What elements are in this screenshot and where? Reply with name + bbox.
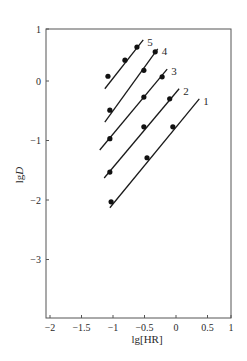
data-point <box>170 124 175 129</box>
data-point <box>107 108 112 113</box>
y-tick-label: 1 <box>36 24 41 35</box>
y-tick-label: 0 <box>36 76 41 87</box>
series-label: 3 <box>171 65 177 77</box>
series-label: 4 <box>162 45 168 57</box>
x-tick-label: 0.5 <box>201 322 214 333</box>
x-tick-label: 1 <box>229 322 234 333</box>
x-tick-label: −1 <box>108 322 119 333</box>
y-tick-label: −1 <box>30 135 41 146</box>
chart-container: −2−1.5−1−0.500.51 10−1−2−3 12345 lg[HR] … <box>0 0 247 361</box>
series-1: 1 <box>109 95 209 208</box>
y-axis-label: lgD <box>13 167 25 184</box>
data-point <box>107 169 112 174</box>
x-tick-label: −0.5 <box>135 322 153 333</box>
data-point <box>107 136 112 141</box>
y-tick-label: −3 <box>30 254 41 265</box>
y-axis-label-variable: D <box>13 167 25 176</box>
data-point <box>141 94 146 99</box>
series-label: 5 <box>147 36 153 48</box>
data-series: 12345 <box>100 36 209 208</box>
fit-line <box>104 89 179 178</box>
data-point <box>122 58 127 63</box>
x-tick-label: −1.5 <box>72 322 90 333</box>
series-label: 2 <box>183 85 189 97</box>
data-point <box>141 124 146 129</box>
fit-line <box>110 99 199 208</box>
y-tick-label: −2 <box>30 195 41 206</box>
data-point <box>105 74 110 79</box>
data-point <box>153 49 158 54</box>
data-point <box>109 199 114 204</box>
data-point <box>144 155 149 160</box>
data-point <box>141 68 146 73</box>
x-tick-label: −2 <box>45 322 56 333</box>
data-point <box>167 96 172 101</box>
x-tick-label: 0 <box>174 322 179 333</box>
x-axis-label: lg[HR] <box>131 333 162 345</box>
series-5: 5 <box>105 36 153 89</box>
series-label: 1 <box>203 95 209 107</box>
scatter-plot: −2−1.5−1−0.500.51 10−1−2−3 12345 lg[HR] … <box>0 0 247 361</box>
data-point <box>160 74 165 79</box>
fit-line <box>105 49 158 122</box>
series-4: 4 <box>105 45 168 122</box>
data-point <box>134 44 139 49</box>
